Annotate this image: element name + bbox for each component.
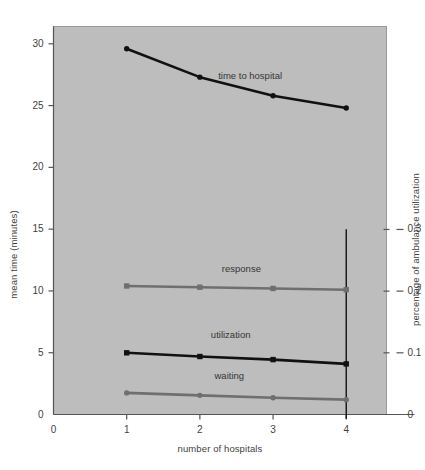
x-tick-label: 2 — [188, 424, 212, 435]
series-marker — [197, 285, 202, 290]
y-tick-label-left: 5 — [18, 347, 44, 358]
series-marker — [197, 354, 202, 359]
y-tick-label-right: 0.2 — [408, 285, 425, 296]
x-tick-label: 4 — [334, 424, 358, 435]
series-marker — [270, 93, 275, 98]
y-axis-label-right: percentage of ambulance utilization — [410, 165, 421, 335]
series-marker — [344, 397, 349, 402]
series-marker — [270, 357, 275, 362]
y-tick-label-right: 0 — [408, 409, 425, 420]
y-tick-label-left: 20 — [18, 161, 44, 172]
chart-figure: mean time (minutes) percentage of ambula… — [0, 0, 425, 470]
y-tick-label-left: 0 — [18, 409, 44, 420]
series-marker — [124, 350, 129, 355]
series-marker — [344, 287, 349, 292]
y-tick-label-left: 30 — [18, 38, 44, 49]
y-tick-label-right: 0.3 — [408, 223, 425, 234]
series-marker — [124, 283, 129, 288]
series-marker — [124, 390, 129, 395]
series-label: time to hospital — [218, 70, 282, 81]
series-label: response — [222, 263, 261, 274]
series-marker — [124, 46, 129, 51]
y-tick-label-left: 15 — [18, 223, 44, 234]
y-axis-label-left: mean time (minutes) — [8, 195, 19, 315]
y-tick-label-right: 0.1 — [408, 347, 425, 358]
series-marker — [197, 74, 202, 79]
series-label: waiting — [215, 370, 245, 381]
y-tick-label-left: 10 — [18, 285, 44, 296]
x-tick-label: 3 — [261, 424, 285, 435]
series-marker — [344, 105, 349, 110]
x-tick-label: 1 — [115, 424, 139, 435]
x-axis-label: number of hospitals — [130, 443, 310, 454]
plot-canvas — [0, 0, 425, 470]
series-marker — [270, 395, 275, 400]
series-marker — [197, 393, 202, 398]
series-marker — [270, 286, 275, 291]
series-label: utilization — [211, 329, 251, 340]
y-tick-label-left: 25 — [18, 100, 44, 111]
series-marker — [344, 361, 349, 366]
x-tick-label: 0 — [42, 424, 66, 435]
